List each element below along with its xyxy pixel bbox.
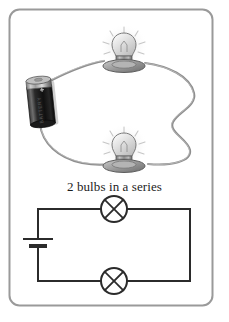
pictorial-bulb-bottom (100, 124, 148, 173)
figure-page: BATTERY (0, 0, 229, 322)
circuit-figure: BATTERY (0, 0, 229, 322)
bulb-glass-bottom (112, 133, 136, 156)
pictorial-battery: BATTERY (26, 75, 59, 129)
schematic-lamp-top (101, 196, 127, 222)
pictorial-bulb-top (100, 24, 148, 73)
schematic-lamp-bottom (101, 268, 127, 294)
figure-caption: 2 bulbs in a series (0, 179, 229, 195)
bulb-glass-top (112, 33, 136, 56)
